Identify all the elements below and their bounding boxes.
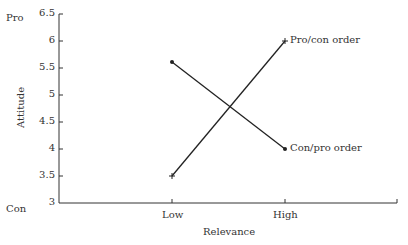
y-tick-label: 5 — [31, 88, 55, 99]
pro-anchor-label: Pro — [6, 12, 24, 23]
con-anchor-label: Con — [6, 203, 26, 214]
y-axis-title: Attitude — [15, 87, 26, 128]
y-tick-label: 3.5 — [31, 169, 55, 180]
series-label-conpro: Con/pro order — [290, 142, 362, 153]
series-line-procon — [172, 41, 285, 176]
y-tick-label: 3 — [31, 196, 55, 207]
series-label-procon: Pro/con order — [290, 34, 360, 45]
x-ticks — [172, 199, 285, 203]
y-tick-label: 4.5 — [31, 115, 55, 126]
x-axis-title: Relevance — [203, 226, 255, 237]
y-ticks — [59, 14, 63, 176]
series-line-conpro — [172, 62, 285, 149]
point-conpro-high — [283, 147, 287, 151]
point-conpro-low — [170, 60, 174, 64]
y-tick-label: 6.5 — [31, 7, 55, 18]
x-tick-label-low: Low — [162, 209, 183, 220]
x-tick-label-high: High — [273, 209, 298, 220]
y-tick-label: 5.5 — [31, 61, 55, 72]
y-tick-label: 6 — [31, 34, 55, 45]
y-tick-label: 4 — [31, 142, 55, 153]
